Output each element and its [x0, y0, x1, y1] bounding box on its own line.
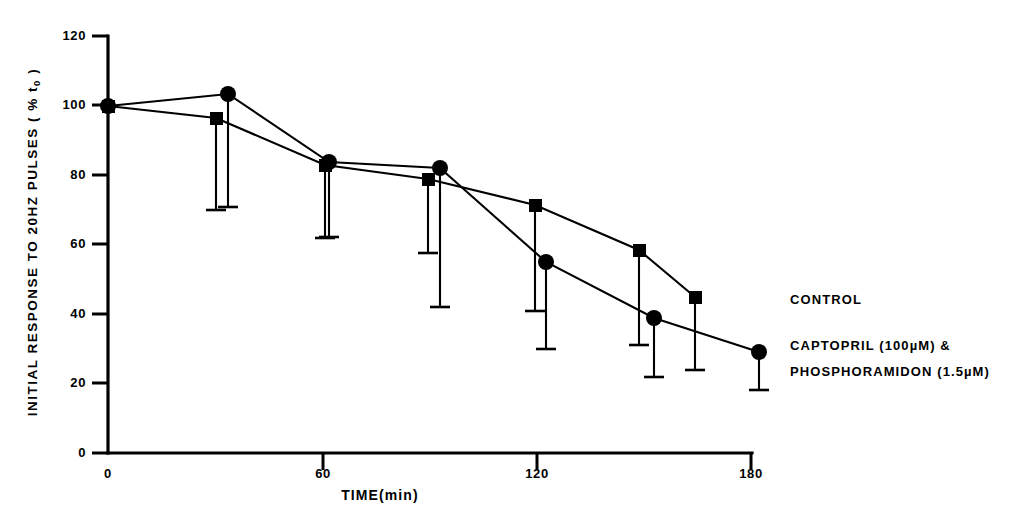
treatment-markers [100, 86, 767, 360]
y-axis-title-prefix: INITIAL RESPONSE TO 20HZ PULSES ( % t [25, 86, 40, 416]
y-axis-title-wrapper: INITIAL RESPONSE TO 20HZ PULSES ( % t0 ) [23, 32, 45, 452]
series-captopril-phosphoramidon [100, 86, 769, 390]
series-control [102, 100, 705, 370]
x-tick-label-180: 180 [731, 466, 771, 481]
x-tick-label-120: 120 [517, 466, 557, 481]
legend-treatment-line-1: CAPTOPRIL (100µM) & [790, 333, 990, 359]
legend-treatment-line-2: PHOSPHORAMIDON (1.5µM) [790, 359, 990, 385]
x-tick-label-60: 60 [303, 466, 343, 481]
legend-item-treatment: CAPTOPRIL (100µM) & PHOSPHORAMIDON (1.5µ… [790, 333, 990, 385]
control-error-bars [206, 118, 705, 370]
x-tick-label-0: 0 [88, 466, 128, 481]
chart-plot-area [0, 0, 1029, 531]
treatment-error-bars [218, 94, 769, 390]
figure-container: 120 100 80 60 40 20 0 0 60 120 180 TIME(… [0, 0, 1029, 531]
y-axis-title-suffix: ) [25, 68, 40, 79]
y-axis-title: INITIAL RESPONSE TO 20HZ PULSES ( % t0 ) [25, 68, 40, 416]
x-axis-title: TIME(min) [0, 487, 760, 503]
legend-item-control: CONTROL [790, 287, 862, 313]
y-axis-title-subscript: 0 [31, 79, 42, 86]
control-markers [102, 100, 702, 304]
